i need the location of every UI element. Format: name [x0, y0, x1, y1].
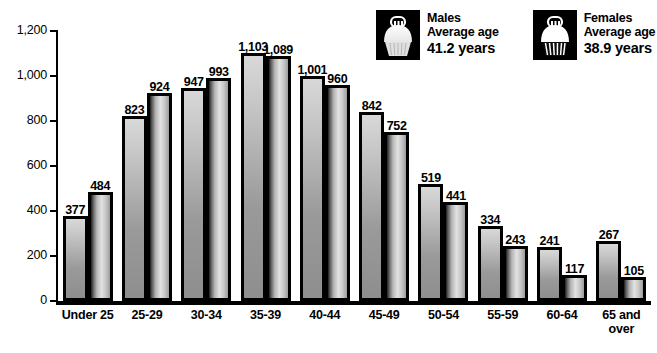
x-axis-category-label: 50-54 — [414, 308, 473, 322]
y-axis-tick — [50, 255, 58, 257]
x-axis-category-label: 60-64 — [532, 308, 591, 322]
bar-value-label: 441 — [446, 189, 466, 203]
bar-value-label: 823 — [124, 103, 144, 117]
x-axis-category-label: 25-29 — [117, 308, 176, 322]
bar-value-label: 960 — [327, 72, 347, 86]
x-axis-category-label: Under 25 — [58, 308, 117, 322]
bar-chart: Males Average age 41.2 years — [0, 0, 657, 353]
bar-females-65-and-over: 105 — [621, 277, 646, 301]
bar-value-label: 842 — [362, 99, 382, 113]
plot-area: 3774848239249479931,1031,0891,0019608427… — [58, 31, 651, 301]
bar-value-label: 243 — [505, 233, 525, 247]
y-axis-tick-label: 800 — [0, 113, 47, 127]
y-axis-tick-label: 600 — [0, 158, 47, 172]
bar-males-55-59: 334 — [478, 226, 503, 301]
bar-males-30-34: 947 — [181, 88, 206, 301]
y-axis-tick — [50, 300, 58, 302]
legend-label-females: Females — [584, 11, 656, 25]
bar-males-50-54: 519 — [418, 184, 443, 301]
y-axis-tick-label: 1,000 — [0, 68, 47, 82]
y-axis-tick — [50, 210, 58, 212]
bar-females-60-64: 117 — [562, 275, 587, 301]
bar-value-label: 241 — [540, 234, 560, 248]
bar-value-label: 1,001 — [297, 63, 327, 77]
bar-females-50-54: 441 — [443, 202, 468, 301]
x-axis-category-label: 55-59 — [473, 308, 532, 322]
bar-value-label: 117 — [565, 262, 584, 276]
x-axis-category-label: 65 and over — [592, 308, 651, 337]
bar-males-60-64: 241 — [537, 247, 562, 301]
bar-value-label: 947 — [184, 75, 204, 89]
bar-females-40-44: 960 — [325, 85, 350, 301]
bar-males-35-39: 1,103 — [241, 53, 266, 301]
bar-females-30-34: 993 — [206, 78, 231, 301]
bar-value-label: 752 — [387, 119, 407, 133]
bar-value-label: 267 — [599, 228, 619, 242]
x-axis-category-label: 35-39 — [236, 308, 295, 322]
bar-value-label: 484 — [90, 179, 110, 193]
y-axis-tick — [50, 120, 58, 122]
y-axis-tick — [50, 75, 58, 77]
bar-females-55-59: 243 — [503, 246, 528, 301]
bar-value-label: 519 — [421, 171, 441, 185]
y-axis-tick-label: 1,200 — [0, 23, 47, 37]
bar-males-25-29: 823 — [122, 116, 147, 301]
bar-value-label: 993 — [209, 65, 229, 79]
bar-value-label: 924 — [149, 80, 169, 94]
y-axis-tick — [50, 165, 58, 167]
x-axis-line — [56, 301, 651, 305]
x-axis-category-label: 30-34 — [177, 308, 236, 322]
bar-males-45-49: 842 — [359, 112, 384, 301]
bar-females-25-29: 924 — [147, 93, 172, 301]
y-axis-tick-label: 200 — [0, 248, 47, 262]
x-axis-category-label: 45-49 — [355, 308, 414, 322]
x-axis-category-label: 40-44 — [295, 308, 354, 322]
bar-value-label: 334 — [480, 213, 500, 227]
legend-label-males: Males — [427, 11, 499, 25]
bar-males-under-25: 377 — [63, 216, 88, 301]
bar-females-under-25: 484 — [88, 192, 113, 301]
bar-value-label: 377 — [65, 203, 85, 217]
bar-value-label: 1,103 — [238, 40, 268, 54]
bar-females-45-49: 752 — [384, 132, 409, 301]
y-axis-tick-label: 400 — [0, 203, 47, 217]
y-axis-tick-label: 0 — [0, 293, 47, 307]
bar-females-35-39: 1,089 — [266, 56, 291, 301]
y-axis-tick — [50, 30, 58, 32]
bar-males-65-and-over: 267 — [596, 241, 621, 301]
bar-males-40-44: 1,001 — [300, 76, 325, 301]
bar-value-label: 105 — [624, 264, 644, 278]
